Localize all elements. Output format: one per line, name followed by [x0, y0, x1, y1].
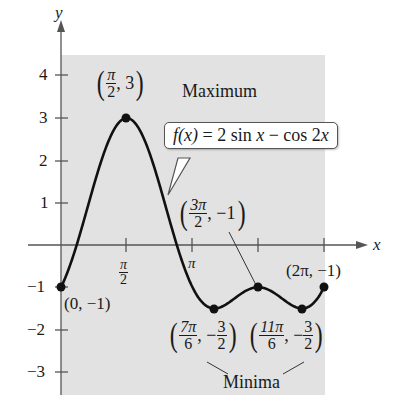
- chart: y x 4 3 2 1 −1 −2 −3 π 2 π ( π 2 , 3 ) M…: [0, 0, 407, 412]
- point-maximum: [122, 114, 131, 123]
- x-tick-label-pi: π: [188, 256, 196, 271]
- minimum-7pi-6-label: ( 7π 6 , − 3 2 ): [168, 318, 238, 352]
- maximum-point-label: ( π 2 , 3 ): [95, 66, 146, 100]
- function-equation-callout: f(x) = 2 sin x − cos 2x: [164, 122, 338, 149]
- point-3pi-2-label: ( 3π 2 , −1 ): [178, 196, 247, 230]
- y-tick-label-4: 4: [39, 66, 48, 83]
- y-axis-label: y: [55, 4, 63, 21]
- y-tick-label-minus-2: −2: [27, 321, 45, 338]
- y-tick-label-3: 3: [39, 109, 48, 126]
- x-tick-label-pi-half: π 2: [119, 258, 128, 287]
- endpoint-2pi-label: (2π, −1): [286, 262, 341, 279]
- x-axis-label: x: [373, 236, 381, 253]
- x-axis-arrow-icon: [356, 241, 368, 249]
- maximum-annotation: Maximum: [182, 82, 257, 100]
- minimum-11pi-6-label: ( 11π 6 , − 3 2 ): [248, 318, 325, 352]
- origin-point-label: (0, −1): [64, 295, 110, 312]
- point-3pi-2: [254, 283, 263, 292]
- point-origin: [57, 283, 66, 292]
- y-tick-label-minus-1: −1: [27, 278, 45, 295]
- point-minimum-11pi-6: [298, 305, 307, 314]
- y-tick-label-2: 2: [39, 152, 48, 169]
- point-minimum-7pi-6: [210, 305, 219, 314]
- minima-annotation: Minima: [223, 373, 280, 391]
- y-tick-label-1: 1: [40, 194, 49, 211]
- y-tick-label-minus-3: −3: [27, 363, 45, 380]
- point-2pi: [320, 283, 329, 292]
